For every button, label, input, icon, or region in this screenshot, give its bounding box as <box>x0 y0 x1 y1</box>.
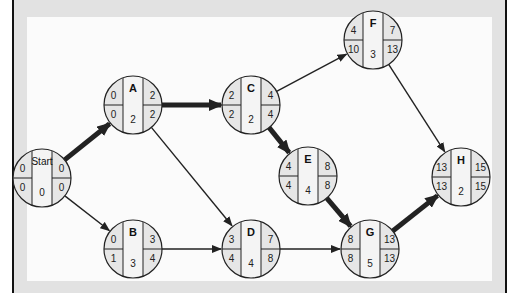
activity-duration: 2 <box>130 114 136 125</box>
activity-duration: 4 <box>248 258 254 269</box>
node-name: A <box>129 82 137 94</box>
node-h: H131513152 <box>432 148 490 206</box>
latest-finish: 13 <box>387 44 399 55</box>
earliest-finish: 4 <box>268 90 274 101</box>
edge-f-to-h <box>389 64 445 151</box>
node-c: C24242 <box>222 76 280 134</box>
node-e: E48484 <box>279 147 337 205</box>
edge-g-to-h-critical <box>393 196 438 231</box>
earliest-start: 4 <box>286 161 292 172</box>
node-name: H <box>457 154 465 166</box>
node-g: G8138135 <box>341 220 399 278</box>
node-b: B03143 <box>104 220 162 278</box>
node-start: Start00000 <box>13 149 71 207</box>
edge-c-to-f <box>277 54 347 91</box>
node-name: G <box>366 226 375 238</box>
earliest-finish: 15 <box>475 162 487 173</box>
latest-finish: 13 <box>384 253 396 264</box>
latest-start: 13 <box>436 181 448 192</box>
activity-duration: 4 <box>305 185 311 196</box>
latest-start: 1 <box>111 253 117 264</box>
latest-start: 4 <box>229 253 235 264</box>
earliest-start: 8 <box>348 234 354 245</box>
activity-duration: 3 <box>370 49 376 60</box>
earliest-finish: 0 <box>59 163 65 174</box>
latest-finish: 15 <box>475 181 487 192</box>
network-diagram: Start00000A02022B03143C24242D37484E48484… <box>0 0 518 293</box>
node-name: F <box>370 17 377 29</box>
activity-duration: 2 <box>458 186 464 197</box>
edge-start-to-b <box>65 196 109 231</box>
edge-c-to-e-critical <box>269 128 289 153</box>
earliest-finish: 3 <box>150 234 156 245</box>
activity-duration: 3 <box>130 258 136 269</box>
latest-start: 10 <box>348 44 360 55</box>
earliest-finish: 7 <box>390 25 396 36</box>
node-name: E <box>304 153 311 165</box>
node-f: F4710133 <box>344 11 402 69</box>
latest-start: 0 <box>111 109 117 120</box>
latest-finish: 0 <box>59 182 65 193</box>
latest-finish: 8 <box>268 253 274 264</box>
earliest-start: 0 <box>111 90 117 101</box>
node-d: D37484 <box>222 220 280 278</box>
latest-start: 8 <box>348 253 354 264</box>
node-name: C <box>247 82 255 94</box>
node-name: D <box>247 226 255 238</box>
latest-finish: 2 <box>150 109 156 120</box>
latest-start: 4 <box>286 180 292 191</box>
activity-duration: 5 <box>367 258 373 269</box>
latest-finish: 8 <box>325 180 331 191</box>
edge-e-to-g-critical <box>327 198 351 226</box>
edge-a-to-d <box>151 127 232 225</box>
earliest-start: 13 <box>436 162 448 173</box>
earliest-start: 2 <box>229 90 235 101</box>
node-name: B <box>129 226 137 238</box>
latest-finish: 4 <box>268 109 274 120</box>
node-name: Start <box>31 156 52 167</box>
activity-duration: 0 <box>39 187 45 198</box>
earliest-finish: 7 <box>268 234 274 245</box>
earliest-finish: 2 <box>150 90 156 101</box>
node-a: A02022 <box>104 76 162 134</box>
earliest-start: 3 <box>229 234 235 245</box>
earliest-start: 0 <box>111 234 117 245</box>
latest-start: 2 <box>229 109 235 120</box>
activity-duration: 2 <box>248 114 254 125</box>
earliest-finish: 13 <box>384 234 396 245</box>
earliest-finish: 8 <box>325 161 331 172</box>
earliest-start: 0 <box>20 163 26 174</box>
latest-start: 0 <box>20 182 26 193</box>
latest-finish: 4 <box>150 253 156 264</box>
edge-start-to-a-critical <box>65 124 110 160</box>
earliest-start: 4 <box>351 25 357 36</box>
